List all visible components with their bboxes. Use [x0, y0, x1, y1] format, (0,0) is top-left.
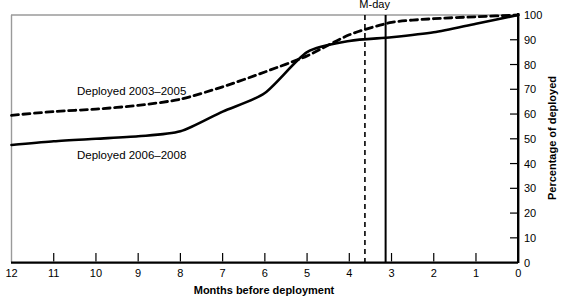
- x-tick-label: 10: [90, 267, 102, 279]
- series-label-2: Deployed 2006–2008: [77, 149, 186, 161]
- annotation-lines: [365, 15, 386, 263]
- y-tick-label: 60: [524, 108, 536, 120]
- series-label-1: Deployed 2003–2005: [77, 85, 186, 97]
- x-tick-label: 12: [5, 267, 17, 279]
- series-paths: [12, 15, 519, 145]
- x-tick-label: 5: [304, 267, 310, 279]
- series-labels: Deployed 2003–2005Deployed 2006–2008: [77, 85, 186, 160]
- y-axis-title: Percentage of deployed: [546, 76, 558, 200]
- y-tick-label: 50: [524, 133, 536, 145]
- x-tick-label: 11: [48, 267, 59, 279]
- x-axis-title: Months before deployment: [194, 284, 335, 296]
- x-axis: 1211109876543210 Months before deploymen…: [5, 253, 521, 296]
- x-tick-label: 1: [473, 267, 479, 279]
- y-tick-label: 30: [524, 182, 536, 194]
- y-tick-label: 100: [524, 9, 542, 21]
- x-tick-label: 8: [177, 267, 183, 279]
- x-tick-label: 0: [515, 267, 521, 279]
- x-tick-label: 2: [431, 267, 437, 279]
- x-tick-label: 3: [388, 267, 394, 279]
- y-axis: 0102030405060708090100 Percentage of dep…: [510, 9, 558, 269]
- y-tick-label: 90: [524, 34, 536, 46]
- y-tick-label: 20: [524, 207, 536, 219]
- y-tick-label: 80: [524, 59, 536, 71]
- y-tick-label: 10: [524, 232, 536, 244]
- m-day-label: M-day: [359, 0, 390, 10]
- y-tick-label: 40: [524, 158, 536, 170]
- chart-container: 1211109876543210 Months before deploymen…: [0, 0, 567, 307]
- series-line-2: [12, 15, 519, 145]
- line-chart: 1211109876543210 Months before deploymen…: [0, 0, 567, 307]
- x-tick-label: 9: [135, 267, 141, 279]
- y-tick-label: 0: [524, 257, 530, 269]
- x-tick-label: 4: [346, 267, 352, 279]
- x-tick-label: 6: [262, 267, 268, 279]
- x-tick-label: 7: [220, 267, 226, 279]
- y-tick-label: 70: [524, 83, 536, 95]
- annotation-labels: M-day: [359, 0, 390, 10]
